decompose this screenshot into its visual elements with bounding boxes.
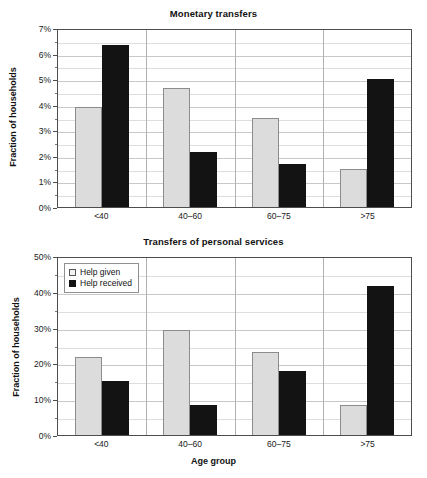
y-axis: 0%1%2%3%4%5%6%7%	[17, 29, 57, 208]
bar-help-received	[102, 45, 129, 207]
y-tick-label: 1%	[17, 177, 51, 187]
x-tick-labels: <4040–6060–75>75	[57, 439, 412, 449]
bar-group	[146, 258, 234, 435]
y-tick-label: 10%	[17, 395, 51, 405]
y-tick-label: 4%	[17, 101, 51, 111]
legend-swatch-help-given-icon	[69, 269, 76, 276]
y-axis: 0%10%20%30%40%50%	[17, 257, 57, 436]
bar-help-given	[75, 107, 102, 207]
bar-help-given	[252, 118, 279, 208]
x-tick-label: 60–75	[235, 439, 324, 449]
plot-area: Help given Help received	[57, 257, 412, 436]
bar-help-received	[367, 286, 394, 435]
y-tick-label: 3%	[17, 126, 51, 136]
y-tick-mark-major	[53, 436, 57, 437]
bar-group	[146, 30, 234, 207]
x-axis-label: Age group	[0, 456, 427, 466]
chart-panel-monetary-transfers: Monetary transfers Fraction of household…	[0, 0, 427, 232]
y-tick-mark-major	[53, 208, 57, 209]
legend: Help given Help received	[64, 263, 139, 293]
bar-help-received	[279, 164, 306, 207]
bar-group	[235, 30, 323, 207]
plot-area	[57, 29, 412, 208]
chart-panel-personal-services: Transfers of personal services Fraction …	[0, 232, 427, 478]
x-tick-labels: <4040–6060–75>75	[57, 211, 412, 221]
y-tick-label: 2%	[17, 152, 51, 162]
x-tick-label: <40	[57, 211, 146, 221]
legend-label-help-given: Help given	[80, 267, 120, 278]
x-tick-label: <40	[57, 439, 146, 449]
y-tick-label: 20%	[17, 359, 51, 369]
bar-help-received	[102, 381, 129, 435]
bar-help-given	[340, 405, 367, 435]
bar-group	[58, 30, 146, 207]
bar-help-received	[279, 371, 306, 435]
bar-group	[235, 258, 323, 435]
legend-item-help-received: Help received	[69, 278, 132, 289]
figure-container: Monetary transfers Fraction of household…	[0, 0, 427, 478]
chart-title: Monetary transfers	[0, 8, 427, 19]
x-tick-label: 60–75	[235, 211, 324, 221]
bar-help-given	[163, 88, 190, 207]
y-tick-label: 0%	[17, 203, 51, 213]
x-tick-label: 40–60	[146, 211, 235, 221]
bar-help-received	[190, 152, 217, 207]
y-tick-label: 30%	[17, 324, 51, 334]
y-tick-label: 7%	[17, 24, 51, 34]
x-tick-label: 40–60	[146, 439, 235, 449]
y-tick-label: 0%	[17, 431, 51, 441]
y-tick-label: 50%	[17, 252, 51, 262]
y-tick-label: 6%	[17, 50, 51, 60]
y-tick-label: 5%	[17, 75, 51, 85]
bar-help-received	[367, 79, 394, 207]
bar-help-given	[252, 352, 279, 435]
legend-item-help-given: Help given	[69, 267, 132, 278]
y-tick-column: 0%1%2%3%4%5%6%7%	[17, 29, 57, 208]
bar-groups	[58, 30, 411, 207]
legend-label-help-received: Help received	[80, 278, 132, 289]
legend-swatch-help-received-icon	[69, 280, 76, 287]
x-tick-label: >75	[323, 439, 412, 449]
chart-title: Transfers of personal services	[0, 236, 427, 247]
y-tick-column: 0%10%20%30%40%50%	[17, 257, 57, 436]
bar-help-given	[75, 357, 102, 435]
bar-group	[323, 258, 411, 435]
bar-help-given	[163, 330, 190, 435]
bar-help-given	[340, 169, 367, 207]
y-tick-label: 40%	[17, 288, 51, 298]
x-tick-label: >75	[323, 211, 412, 221]
bar-group	[323, 30, 411, 207]
bar-help-received	[190, 405, 217, 435]
